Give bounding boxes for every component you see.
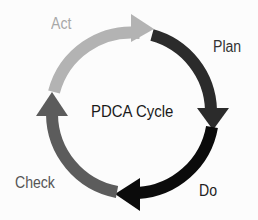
stage-label-check: Check xyxy=(15,175,55,191)
check-arrow-icon xyxy=(36,92,68,116)
stage-label-do: Do xyxy=(199,183,217,199)
check-arc xyxy=(52,114,117,192)
act-arc xyxy=(54,33,140,92)
act-arrow-icon xyxy=(131,14,154,42)
plan-arrow-icon xyxy=(197,108,229,130)
do-arrow-icon xyxy=(115,178,140,211)
stage-label-plan: Plan xyxy=(213,39,241,55)
plan-arc xyxy=(152,35,211,110)
stage-label-act: Act xyxy=(51,16,71,32)
cycle-title: PDCA Cycle xyxy=(91,103,173,120)
